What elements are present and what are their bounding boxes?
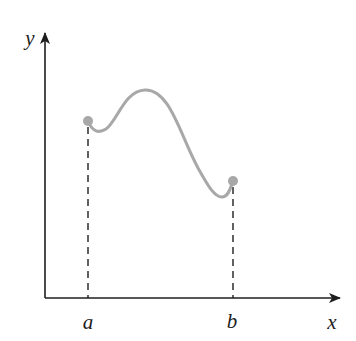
- x-axis-label: x: [327, 312, 336, 333]
- interval-end-label: b: [227, 311, 238, 332]
- function-graph: [0, 0, 356, 341]
- y-axis-label: y: [25, 28, 34, 49]
- endpoint-a-marker: [83, 116, 93, 126]
- endpoint-b-marker: [228, 176, 238, 186]
- function-curve: [88, 90, 233, 197]
- interval-start-label: a: [83, 312, 94, 333]
